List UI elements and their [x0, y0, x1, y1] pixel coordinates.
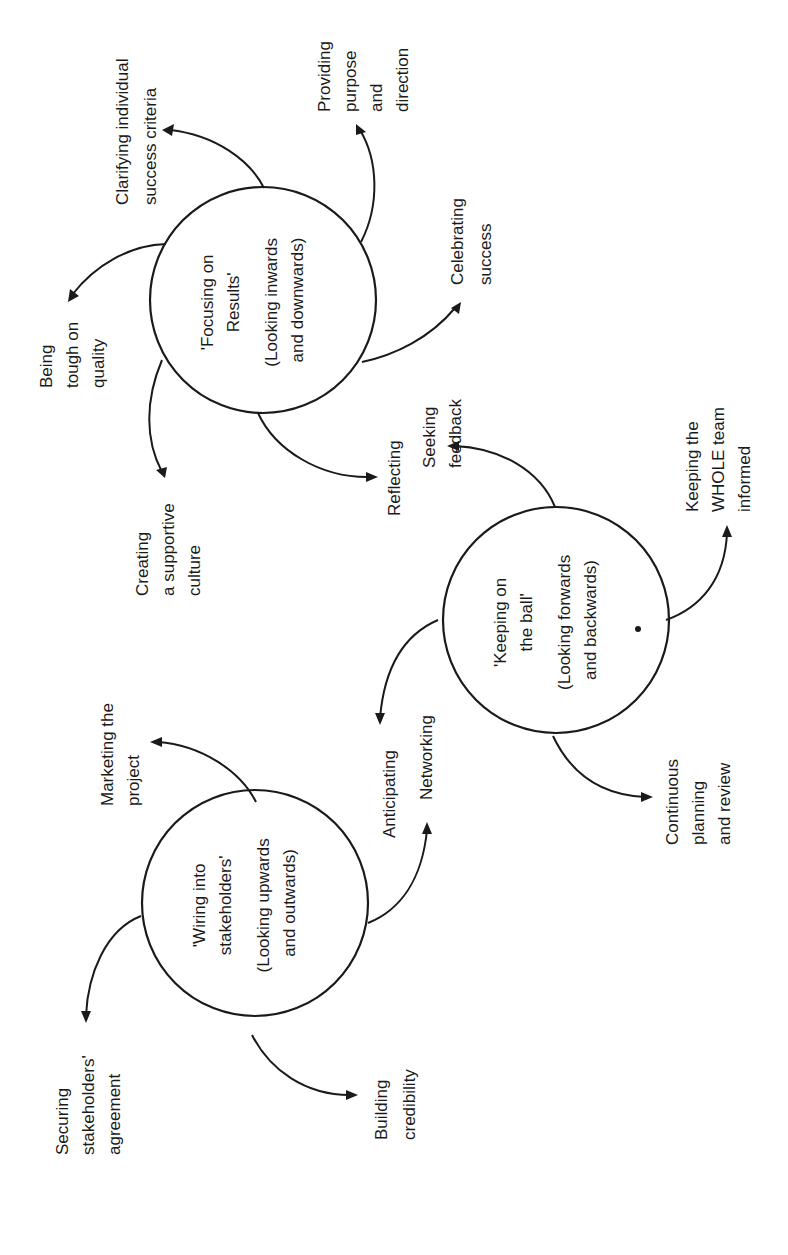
label-building-credibility: Building credibility — [372, 1069, 419, 1140]
hub-focusing-on-results: 'Focusing on Results' (Looking inwards a… — [37, 36, 495, 596]
label-continuous-planning: Continuous planning and review — [663, 754, 734, 845]
arrowhead-icon — [150, 737, 162, 747]
arrowhead-icon — [346, 1090, 358, 1100]
spoke-clarifying: Clarifying individual success criteria — [113, 54, 264, 205]
arrowhead-icon — [156, 467, 167, 478]
spoke-securing-agreement: Securing stakeholders' agreement — [53, 916, 141, 1155]
spoke-providing: Providing purpose and direction — [315, 36, 412, 242]
label-keeping-team-informed: Keeping the WHOLE team informed — [683, 402, 754, 512]
spoke-being-tough: Being tough on quality — [37, 244, 166, 388]
label-networking: Networking — [417, 715, 436, 800]
arrowhead-icon — [356, 124, 366, 135]
label-celebrating: Celebrating success — [448, 193, 495, 285]
label-being-tough: Being tough on quality — [37, 317, 108, 388]
spoke-celebrating: Celebrating success — [362, 193, 495, 362]
spoke-creating-culture: Creating a supportive culture — [133, 360, 204, 596]
hub-wiring-into-stakeholders: 'Wiring into stakeholders' (Looking upwa… — [53, 698, 436, 1155]
spoke-keeping-team-informed: Keeping the WHOLE team informed — [666, 402, 754, 620]
spoke-marketing: Marketing the project — [98, 698, 256, 806]
spoke-reflecting: Reflecting — [258, 413, 404, 516]
label-anticipating: Anticipating — [380, 750, 399, 838]
arrowhead-icon — [366, 472, 378, 482]
label-marketing: Marketing the project — [98, 698, 143, 806]
arrowhead-icon — [81, 1011, 91, 1023]
hub-title-focusing: 'Focusing on Results' (Looking inwards a… — [198, 233, 307, 366]
arrowhead-icon — [641, 792, 653, 802]
arrowhead-icon — [162, 124, 174, 136]
spoke-seeking-feedback: Seeking feedback — [420, 399, 555, 507]
arrowhead-icon — [68, 289, 79, 302]
spoke-building-credibility: Building credibility — [252, 1035, 419, 1140]
project-leadership-diagram: 'Focusing on Results' (Looking inwards a… — [0, 0, 788, 1255]
label-reflecting: Reflecting — [385, 440, 404, 516]
arrowhead-icon — [375, 713, 385, 725]
label-providing: Providing purpose and direction — [315, 36, 412, 112]
hub-title-keeping: 'Keeping on the ball' (Looking forwards … — [491, 550, 600, 690]
label-clarifying: Clarifying individual success criteria — [113, 54, 160, 205]
label-seeking-feedback: Seeking feedback — [420, 399, 465, 468]
spoke-networking: Networking — [368, 715, 436, 923]
label-creating-culture: Creating a supportive culture — [133, 499, 204, 596]
dot-mark — [635, 626, 641, 632]
arrowhead-icon — [722, 525, 732, 537]
arrowhead-icon — [422, 822, 432, 834]
label-securing-agreement: Securing stakeholders' agreement — [53, 1051, 124, 1155]
hub-title-wiring: 'Wiring into stakeholders' (Looking upwa… — [190, 834, 299, 973]
spoke-continuous-planning: Continuous planning and review — [553, 736, 734, 845]
